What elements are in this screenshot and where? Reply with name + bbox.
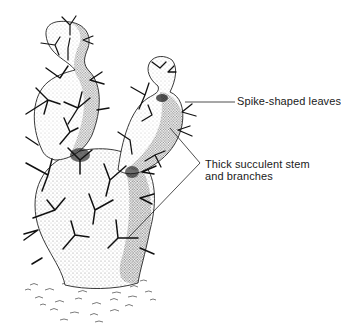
spike-shaped-leaves-label: Spike-shaped leaves	[237, 95, 341, 107]
stem-label-line-2: and branches	[205, 170, 310, 182]
right-branch	[118, 56, 183, 173]
stem-label-line-1: Thick succulent stem	[205, 158, 310, 170]
joint-shadow	[125, 166, 139, 178]
thick-succulent-stem-label: Thick succulent stem and branches	[205, 158, 310, 182]
